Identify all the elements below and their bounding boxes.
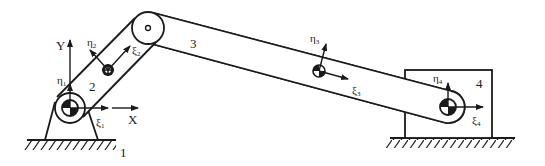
- eta-2-label: η2: [87, 36, 97, 50]
- body-label-1: 1: [120, 145, 127, 160]
- x-axis-label: X: [128, 112, 138, 127]
- ground-right: [386, 138, 515, 148]
- body-label-4: 4: [476, 76, 483, 91]
- ground-left: [24, 140, 116, 150]
- body-label-3: 3: [190, 36, 197, 51]
- slider-crank-diagram: Y X 1 2 3 4 η1 ξ1 η2 ξ2 η3 ξ3 η4 ξ4: [0, 0, 545, 166]
- eta-1-label: η1: [57, 74, 67, 88]
- y-axis-label: Y: [56, 38, 66, 53]
- body-label-2: 2: [89, 79, 96, 94]
- eta-3-label: η3: [310, 32, 320, 46]
- joint-crank-rod: [132, 12, 164, 44]
- xi-1-label: ξ1: [96, 116, 105, 130]
